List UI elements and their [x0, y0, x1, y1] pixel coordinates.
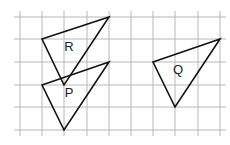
triangle-p-label: P [65, 85, 74, 100]
triangle-q: Q [153, 39, 220, 107]
triangle-p: P [42, 62, 109, 130]
triangle-q-outline [153, 39, 220, 107]
triangle-q-label: Q [173, 62, 183, 77]
grid-diagram: R P Q [0, 0, 230, 145]
triangle-p-outline [42, 62, 109, 130]
triangle-r: R [42, 17, 109, 85]
grid-lines [14, 11, 226, 136]
triangle-r-outline [42, 17, 109, 85]
triangle-r-label: R [64, 39, 73, 54]
